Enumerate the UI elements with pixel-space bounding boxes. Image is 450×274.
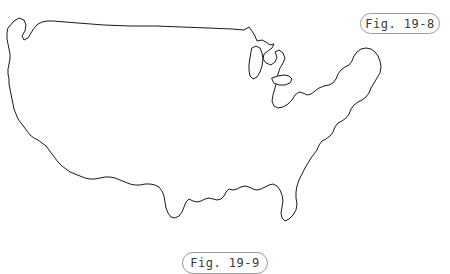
figure-label-19-8: Fig. 19-8 (360, 13, 440, 34)
great-lakes-erie-ontario (272, 75, 292, 85)
us-country-outline (7, 18, 381, 221)
figure-label-19-9: Fig. 19-9 (182, 252, 268, 274)
